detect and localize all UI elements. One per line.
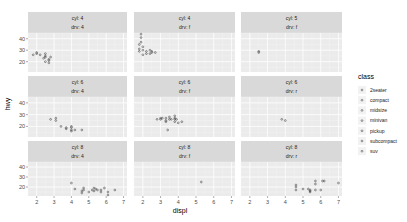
y-axis-title: hwy [4,97,12,110]
legend-label: suv [370,148,378,154]
strip-label: cyl: 8 [72,144,84,150]
y-tick-label: 40 [19,36,25,42]
legend-key [358,127,366,135]
facet-panel: cyl: 8drv: r [241,141,342,196]
y-tick-label: 40 [19,100,25,106]
y-tick-label: 40 [19,164,25,170]
x-tick-label: 3 [266,199,269,205]
legend-label: pickup [370,128,385,134]
strip-label: drv: f [179,24,191,30]
legend-key [358,137,366,145]
legend-key [358,86,366,94]
x-tick-label: 3 [53,199,56,205]
legend-label: minivan [370,117,387,123]
strip-label: drv: f [179,153,191,159]
x-tick-label: 6 [212,199,215,205]
facet-panel: cyl: 8drv: 4 [28,141,127,196]
legend-key [358,106,366,114]
facet-panel: cyl: 6drv: 4 [28,76,127,137]
x-tick-label: 2 [248,199,251,205]
faceted-scatter-plot: cyl: 4drv: 4cyl: 4drv: fcyl: 5drv: fcyl:… [0,0,407,222]
panels: cyl: 4drv: 4cyl: 4drv: fcyl: 5drv: fcyl:… [28,12,342,196]
legend-label: compact [370,97,390,103]
strip-label: cyl: 6 [72,79,84,85]
strip-label: drv: 4 [71,24,84,30]
facet-panel: cyl: 6drv: f [134,76,235,137]
x-tick-label: 7 [337,199,340,205]
facet-panel: cyl: 6drv: r [241,76,342,137]
legend-key [358,147,366,155]
x-tick-label: 5 [194,199,197,205]
y-tick-label: 20 [19,184,25,190]
facet-panel: cyl: 8drv: f [134,141,235,196]
x-tick-label: 7 [230,199,233,205]
strip-label: cyl: 4 [179,15,191,21]
strip-label: cyl: 6 [286,79,298,85]
x-tick-label: 4 [70,199,73,205]
strip-label: cyl: 6 [179,79,191,85]
y-tick-label: 20 [19,123,25,129]
x-tick-label: 5 [87,199,90,205]
legend-key [358,117,366,125]
facet-panel: cyl: 4drv: 4 [28,12,127,72]
y-tick-label: 30 [19,47,25,53]
strip-label: cyl: 5 [286,15,298,21]
x-tick-label: 4 [177,199,180,205]
strip-label: drv: f [286,24,298,30]
legend: class 2seatercompactmidsizeminivanpickup… [358,73,398,155]
x-axis-title: displ [173,207,188,215]
facet-panel: cyl: 4drv: f [134,12,235,72]
strip-label: cyl: 4 [72,15,84,21]
strip-label: drv: f [179,88,191,94]
strip-label: drv: r [286,153,298,159]
x-tick-label: 5 [301,199,304,205]
legend-label: midsize [370,107,387,113]
x-tick-label: 2 [141,199,144,205]
strip-label: drv: r [286,88,298,94]
legend-label: 2seater [370,87,387,93]
x-tick-label: 7 [122,199,125,205]
legend-key [358,96,366,104]
x-tick-label: 6 [105,199,108,205]
strip-label: cyl: 8 [286,144,298,150]
y-tick-label: 20 [19,59,25,65]
x-tick-label: 6 [319,199,322,205]
strip-label: drv: 4 [71,153,84,159]
strip-label: cyl: 8 [179,144,191,150]
legend-label: subcompact [370,138,398,144]
x-tick-label: 3 [159,199,162,205]
y-tick-label: 30 [19,112,25,118]
facet-panel: cyl: 5drv: f [241,12,342,72]
strip-label: drv: 4 [71,88,84,94]
y-tick-label: 30 [19,174,25,180]
x-tick-label: 2 [35,199,38,205]
legend-title: class [358,73,374,80]
x-tick-label: 4 [284,199,287,205]
